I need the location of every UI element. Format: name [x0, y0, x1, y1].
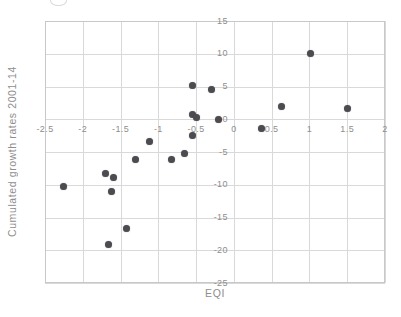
data-point [102, 170, 109, 177]
x-tick-label: 1.5 [333, 124, 361, 135]
data-point [215, 116, 222, 123]
y-tick-label: 10 [188, 48, 228, 59]
x-tick-label: -1.5 [107, 124, 135, 135]
data-point [168, 156, 175, 163]
data-point [108, 188, 115, 195]
x-tick-label: 2 [371, 124, 399, 135]
x-tick-label: 0 [220, 124, 248, 135]
y-tick-label: -10 [188, 179, 228, 190]
vertical-gridline [385, 21, 386, 283]
x-tick-label: -2.5 [31, 124, 59, 135]
data-point [189, 132, 196, 139]
data-point [105, 241, 112, 248]
data-point [189, 82, 196, 89]
data-point [208, 86, 215, 93]
y-tick-label: -15 [188, 212, 228, 223]
x-tick-label: 1 [295, 124, 323, 135]
data-point [60, 183, 67, 190]
y-tick-label: -20 [188, 245, 228, 256]
x-tick-label: -0.5 [182, 124, 210, 135]
data-point [307, 50, 314, 57]
data-point [146, 138, 153, 145]
data-point [132, 156, 139, 163]
y-axis-title: Cumulated growth rates 2001-14 [4, 21, 20, 283]
data-point [278, 103, 285, 110]
x-axis-title: EQI [45, 287, 385, 299]
x-tick-label: -2 [69, 124, 97, 135]
y-tick-label: -5 [188, 147, 228, 158]
y-tick-label: 15 [188, 16, 228, 27]
cropped-text-artifact [50, 0, 67, 6]
data-point [110, 174, 117, 181]
data-point [123, 225, 130, 232]
data-point [344, 105, 351, 112]
x-tick-label: -1 [144, 124, 172, 135]
scatter-figure: Cumulated growth rates 2001-14 -2.5-2-1.… [0, 0, 401, 317]
data-point [258, 125, 265, 132]
